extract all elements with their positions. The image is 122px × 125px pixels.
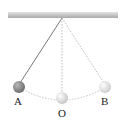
dashed-to-b [62, 18, 104, 83]
ball-o [56, 92, 68, 104]
ceiling-bar [8, 12, 118, 18]
label-a: A [14, 96, 22, 107]
label-o: O [58, 108, 66, 119]
ball-b [99, 81, 111, 93]
label-b: B [101, 96, 108, 107]
string-to-a [20, 18, 62, 83]
ball-a [13, 81, 25, 93]
